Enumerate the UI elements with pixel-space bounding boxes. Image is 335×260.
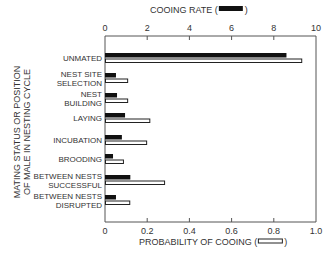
category-label: UNMATED: [63, 54, 102, 63]
category-label: NEST: [81, 90, 102, 99]
probability-bar: [106, 59, 302, 63]
axis-titles: COOING RATE ()PROBABILITY OF COOING (): [139, 5, 287, 247]
cooing-rate-bar: [105, 195, 116, 200]
bar-series: [105, 53, 302, 205]
cooing-rate-bar: [105, 73, 116, 78]
top-axis-cooing-rate: 0246810: [102, 23, 321, 40]
y-axis-title: MATING STATUS OR POSITIONOF MALE IN NEST…: [12, 66, 32, 199]
bottom-tick-label: 1.0: [310, 226, 323, 236]
probability-bar: [106, 141, 147, 145]
probability-bar: [106, 99, 128, 103]
category-label: BETWEEN NESTS: [34, 192, 102, 201]
bottom-tick-label: 0.2: [141, 226, 154, 236]
y-axis-title-line: OF MALE IN NESTING CYCLE: [22, 69, 32, 195]
top-tick-label: 10: [311, 23, 321, 33]
top-tick-label: 8: [271, 23, 276, 33]
plot-frame: [105, 36, 316, 222]
cooing-rate-bar: [105, 175, 130, 180]
top-tick-label: 2: [145, 23, 150, 33]
category-label: SELECTION: [57, 79, 103, 88]
bottom-tick-label: 0.8: [268, 226, 281, 236]
bottom-tick-label: 0.4: [183, 226, 196, 236]
bottom-tick-label: 0.6: [225, 226, 238, 236]
top-tick-label: 0: [102, 23, 107, 33]
cooing-rate-bar: [105, 135, 122, 140]
bottom-axis-probability: 00.20.40.60.81.0: [102, 218, 322, 236]
bottom-tick-label: 0: [102, 226, 107, 236]
probability-bar: [106, 160, 124, 164]
svg-text:): ): [245, 5, 248, 15]
category-label: INCUBATION: [53, 136, 102, 145]
cooing-rate-legend-swatch: [219, 6, 243, 11]
cooing-rate-bar: [105, 53, 286, 58]
probability-bar: [106, 201, 130, 205]
category-label: LAYING: [73, 114, 102, 123]
probability-bar: [106, 119, 150, 123]
category-label: DISRUPTED: [56, 201, 102, 210]
cooing-rate-bar: [105, 113, 125, 118]
cooing-rate-bar: [105, 93, 117, 98]
category-label: BROODING: [58, 155, 102, 164]
probability-legend-swatch: [258, 239, 282, 243]
cooing-chart: 0246810 00.20.40.60.81.0 UNMATEDNEST SIT…: [0, 0, 335, 260]
category-label: SUCCESSFUL: [48, 181, 102, 190]
category-label: NEST SITE: [61, 70, 102, 79]
top-tick-label: 6: [229, 23, 234, 33]
probability-bar: [106, 181, 165, 185]
cooing-rate-bar: [105, 154, 113, 159]
top-tick-label: 4: [187, 23, 192, 33]
bottom-axis-title: PROBABILITY OF COOING (: [139, 237, 257, 247]
y-axis-title-line: MATING STATUS OR POSITION: [12, 66, 22, 199]
top-axis-title: COOING RATE (: [150, 5, 218, 15]
svg-text:): ): [284, 237, 287, 247]
category-label: BUILDING: [64, 99, 102, 108]
category-labels: UNMATEDNEST SITESELECTIONNESTBUILDINGLAY…: [34, 54, 103, 210]
probability-bar: [106, 79, 128, 83]
category-label: BETWEEN NESTS: [34, 172, 102, 181]
